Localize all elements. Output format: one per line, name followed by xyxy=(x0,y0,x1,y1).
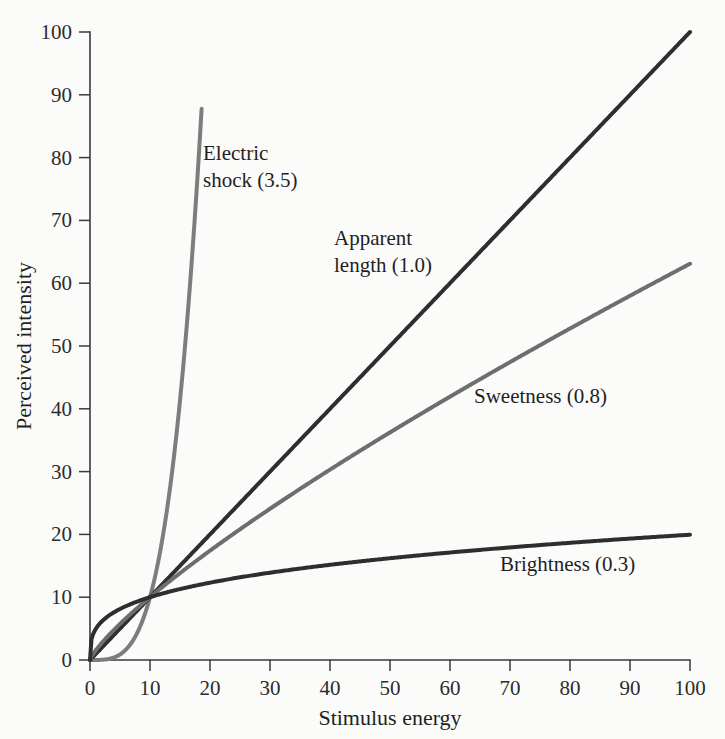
series-label-apparent-length: Apparent xyxy=(334,226,412,250)
chart-page: 0102030405060708090100 01020304050607080… xyxy=(0,0,725,739)
y-tick-label: 100 xyxy=(41,20,73,44)
series-label-electric-shock: shock (3.5) xyxy=(203,168,297,192)
y-tick-label: 40 xyxy=(51,397,72,421)
y-tick-label: 30 xyxy=(51,460,72,484)
x-tick-label: 20 xyxy=(200,676,221,700)
x-tick-label: 50 xyxy=(380,676,401,700)
y-tick-label: 80 xyxy=(51,146,72,170)
x-tick-label: 60 xyxy=(440,676,461,700)
x-tick-label: 30 xyxy=(260,676,281,700)
series-label-apparent-length: length (1.0) xyxy=(334,253,432,277)
y-tick-label: 50 xyxy=(51,334,72,358)
y-tick-label: 70 xyxy=(51,208,72,232)
x-tick-label: 90 xyxy=(620,676,641,700)
y-axis-title: Perceived intensity xyxy=(11,262,36,430)
x-tick-label: 10 xyxy=(140,676,161,700)
stevens-power-law-chart: 0102030405060708090100 01020304050607080… xyxy=(0,0,725,739)
y-tick-label: 60 xyxy=(51,271,72,295)
series-label-electric-shock: Electric xyxy=(203,141,268,165)
y-tick-label: 0 xyxy=(62,648,73,672)
x-axis-title: Stimulus energy xyxy=(318,705,461,730)
y-tick-label: 20 xyxy=(51,522,72,546)
x-tick-label: 40 xyxy=(320,676,341,700)
x-tick-label: 80 xyxy=(560,676,581,700)
series-label-sweetness: Sweetness (0.8) xyxy=(474,384,607,408)
x-tick-label: 100 xyxy=(674,676,706,700)
series-label-brightness: Brightness (0.3) xyxy=(500,552,635,576)
y-tick-label: 10 xyxy=(51,585,72,609)
x-tick-label: 70 xyxy=(500,676,521,700)
x-tick-label: 0 xyxy=(85,676,96,700)
y-tick-label: 90 xyxy=(51,83,72,107)
